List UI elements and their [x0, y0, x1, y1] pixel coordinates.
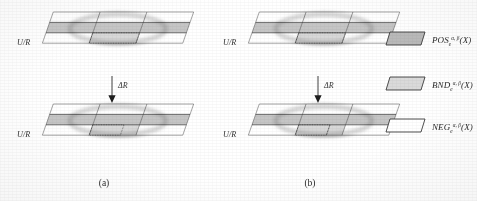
legend-label-neg: NEGeα, β(X)	[431, 122, 473, 134]
legend-label-pos-arg: (X)	[460, 35, 472, 45]
legend-swatch-bnd	[386, 77, 425, 90]
legend-swatch-neg	[386, 119, 425, 132]
panel-b-top	[248, 12, 399, 43]
legend-label-neg-arg: (X)	[461, 122, 473, 132]
legend-label-bnd: BNDeα, β(X)	[432, 80, 473, 92]
axis-label-a-bottom: U/R	[17, 130, 30, 139]
legend-label-pos: POSeα, β(X)	[431, 35, 471, 47]
figure-root: U/R ΔR U/R (a)	[0, 0, 477, 201]
legend-item-bnd: BNDeα, β(X)	[386, 77, 473, 92]
panel-a-top	[42, 12, 193, 43]
transition-arrow-a	[108, 76, 115, 103]
legend-label-pos-base: POS	[431, 35, 449, 45]
legend-item-pos: POSeα, β(X)	[386, 32, 471, 47]
legend-item-neg: NEGeα, β(X)	[386, 119, 473, 134]
axis-label-a-top: U/R	[17, 38, 30, 47]
rough-set-approximation-figure: U/R ΔR U/R (a)	[0, 0, 477, 201]
legend-label-neg-sup: α, β	[453, 122, 462, 128]
transition-label-a: ΔR	[117, 81, 128, 90]
legend-label-pos-sub: e	[449, 41, 452, 47]
legend-label-bnd-arg: (X)	[461, 80, 473, 90]
transition-arrow-b	[314, 76, 321, 103]
legend-label-bnd-sup: α, β	[453, 80, 462, 86]
legend-label-neg-base: NEG	[431, 122, 451, 132]
panel-a-bottom	[42, 104, 193, 135]
caption-b: (b)	[304, 178, 315, 189]
axis-label-b-bottom: U/R	[223, 130, 236, 139]
transition-label-b: ΔR	[323, 81, 334, 90]
caption-a: (a)	[99, 178, 110, 189]
legend-swatch-pos	[386, 32, 425, 45]
legend-label-bnd-base: BND	[432, 80, 451, 90]
axis-label-b-top: U/R	[223, 38, 236, 47]
legend-label-neg-sub: e	[450, 128, 453, 134]
legend-label-bnd-sub: e	[450, 86, 453, 92]
panel-b-bottom	[248, 104, 399, 135]
legend-label-pos-sup: α, β	[451, 35, 460, 41]
